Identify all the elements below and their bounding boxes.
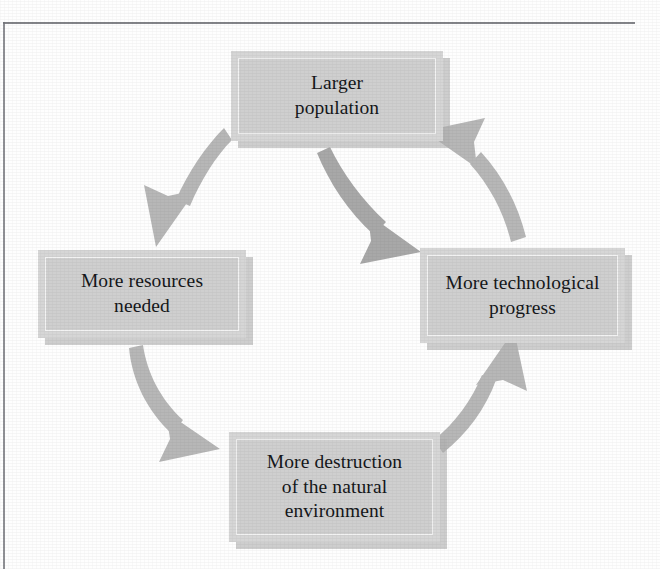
node-line: Larger: [311, 72, 363, 93]
node-more-resources-needed-label: More resources needed: [45, 269, 239, 318]
node-line: of the natural: [282, 476, 387, 497]
node-line: More resources: [81, 270, 203, 291]
node-more-technological-progress-label: More technological progress: [427, 271, 618, 320]
node-line: progress: [489, 297, 556, 318]
node-line: population: [295, 97, 379, 118]
node-line: environment: [285, 500, 385, 521]
node-line: More technological: [446, 272, 600, 293]
node-more-resources-needed[interactable]: More resources needed: [38, 250, 246, 338]
left-vertical-rule: [3, 22, 5, 569]
figure-page: Larger population More resources needed …: [0, 0, 660, 569]
node-more-technological-progress[interactable]: More technological progress: [420, 248, 625, 343]
node-line: needed: [114, 295, 170, 316]
arrow-destruction-to-technology: [434, 330, 527, 453]
arrow-resources-to-destruction: [129, 345, 220, 462]
node-larger-population[interactable]: Larger population: [231, 51, 443, 141]
node-larger-population-label: Larger population: [238, 71, 436, 120]
arrow-population-to-resources: [144, 128, 232, 247]
top-horizontal-rule: [3, 22, 635, 24]
node-more-destruction-natural-environment-label: More destruction of the natural environm…: [236, 450, 433, 524]
node-more-destruction-natural-environment[interactable]: More destruction of the natural environm…: [229, 432, 440, 542]
node-line: More destruction: [267, 451, 402, 472]
arrow-population-to-technology: [317, 147, 421, 264]
